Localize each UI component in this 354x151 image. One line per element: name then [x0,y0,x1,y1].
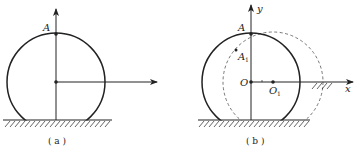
y-axis-label: y [256,3,263,14]
moved-center-subscript: 1 [277,90,281,97]
figure-a: A ( a ) [0,9,157,146]
point-a-label: A [42,22,50,33]
point-a [54,32,58,36]
figure-b: y x A A 1 O O 1 ( b ) [195,3,353,146]
diagram-canvas: A ( a ) y x A A 1 O O 1 ( b ) [0,0,354,151]
caption-a: ( a ) [48,136,66,146]
caption-b: ( b ) [246,136,265,146]
small-ground-segment [312,83,332,89]
center-point [54,80,58,84]
point-a1-label: A [237,51,245,62]
moved-center-point [271,80,275,84]
point-a1-subscript: 1 [245,56,249,63]
point-a [249,32,253,36]
moved-center-label: O [269,85,277,96]
origin-label: O [240,77,248,88]
x-axis-label: x [345,83,351,94]
origin-point [249,80,253,84]
point-a-label: A [237,22,245,33]
